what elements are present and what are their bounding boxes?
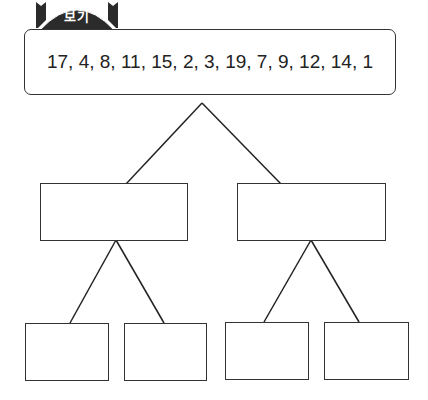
tree-node-leaf-2[interactable] <box>124 323 207 381</box>
tree-node-mid-right[interactable] <box>237 183 386 241</box>
tree-node-leaf-4[interactable] <box>324 322 409 380</box>
tree-node-mid-left[interactable] <box>40 183 188 241</box>
tree-node-leaf-1[interactable] <box>25 323 109 381</box>
tree-node-leaf-3[interactable] <box>225 322 309 380</box>
